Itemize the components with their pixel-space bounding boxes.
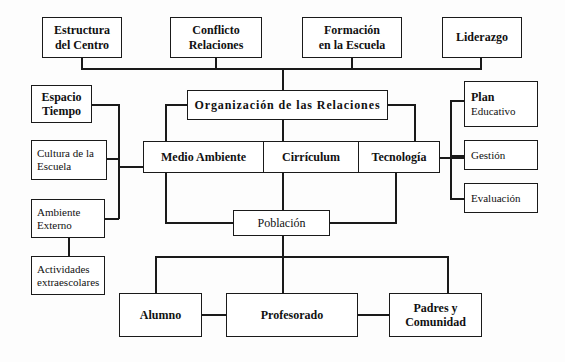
diagram-canvas: Estructura del Centro Conflicto Relacion… (0, 0, 565, 362)
node-label-line1: Cultura de la (37, 147, 94, 160)
node-label-line2: Externo (37, 219, 72, 232)
edge-medio-ambiente-to-poblacion (165, 222, 234, 224)
edge-alumno-to-profesorado (202, 314, 227, 316)
node-label-line1: Estructura (54, 23, 110, 37)
node-label-line1: Evaluación (471, 192, 520, 205)
edge-tecnologia-to-right-bus (440, 157, 466, 159)
node-formacion-escuela[interactable]: Formación en la Escuela (302, 17, 402, 58)
node-label-line2: en la Escuela (319, 38, 386, 52)
node-plan-educativo[interactable]: Plan Educativo (464, 81, 538, 127)
node-label-line2: Educativo (471, 105, 516, 118)
node-label-line1: Profesorado (261, 308, 323, 322)
node-label-line1: Plan (471, 90, 494, 104)
node-label-line1: Padres y (413, 301, 457, 315)
node-evaluacion[interactable]: Evaluación (464, 183, 538, 213)
node-label-line1: Organización de las Relaciones (195, 98, 381, 112)
edge-bottom-bus-to-profesorado (282, 256, 284, 294)
edge-tecnologia-drop (395, 173, 397, 223)
node-label-line1: Conflicto (192, 23, 239, 37)
node-espacio-tiempo[interactable]: Espacio Tiempo (31, 85, 92, 123)
edge-medio-ambiente-drop (165, 173, 167, 223)
edge-cultura-escuela-stub (107, 158, 119, 160)
node-gestion[interactable]: Gestión (464, 140, 538, 170)
node-label-line2: Comunidad (405, 315, 466, 329)
node-poblacion[interactable]: Población (233, 210, 330, 236)
edge-curriculum-to-poblacion (282, 173, 284, 211)
node-label-line1: Espacio (41, 90, 81, 104)
node-profesorado[interactable]: Profesorado (226, 293, 358, 337)
edge-right-bus-to-plan (450, 100, 465, 102)
node-alumno[interactable]: Alumno (119, 293, 202, 337)
edge-profesorado-to-padres (358, 314, 390, 316)
node-label-line2: Tiempo (42, 104, 81, 118)
edge-left-bus (118, 104, 120, 219)
node-label-line1: Formación (324, 23, 380, 37)
node-ambiente-externo[interactable]: Ambiente Externo (31, 199, 105, 238)
node-label-line1: Población (258, 216, 306, 230)
node-label-line1: Alumno (140, 308, 181, 322)
node-padres-comunidad[interactable]: Padres y Comunidad (389, 293, 482, 337)
node-conflicto-relaciones[interactable]: Conflicto Relaciones (170, 17, 262, 58)
edge-organizacion-center-drop (282, 120, 284, 141)
edge-right-bus (450, 100, 452, 199)
edge-ambiente-to-actividades (68, 238, 70, 257)
node-label-line1: Liderazgo (456, 30, 508, 44)
edge-organizacion-right-stub (388, 104, 415, 106)
node-label-line2: extraescolares (37, 276, 99, 289)
node-label-line1: Medio Ambiente (161, 150, 246, 164)
edge-organizacion-right-drop (414, 104, 416, 141)
edge-organizacion-left-drop (165, 104, 167, 141)
edge-left-bus-to-medio-ambiente (118, 166, 144, 168)
node-label-line1: Gestión (471, 149, 505, 162)
node-label-line1: Cirrículum (282, 150, 340, 164)
edge-poblacion-drop (282, 236, 284, 257)
node-estructura-centro[interactable]: Estructura del Centro (42, 17, 122, 58)
edge-right-bus-to-gestion (450, 155, 465, 157)
edge-bottom-bus-to-alumno (155, 256, 157, 294)
node-label-line2: del Centro (55, 38, 109, 52)
node-label-line2: Relaciones (189, 38, 244, 52)
node-curriculum[interactable]: Cirrículum (263, 141, 359, 173)
node-label-line1: Tecnología (372, 150, 427, 164)
edge-organizacion-left-stub (165, 104, 188, 106)
node-label-line1: Ambiente (37, 206, 80, 219)
node-label-line1: Actividades (37, 263, 90, 276)
edge-espacio-tiempo-stub (92, 104, 119, 106)
edge-bottom-bus-to-padres (447, 256, 449, 294)
edge-right-bus-to-evaluacion (450, 198, 465, 200)
node-cultura-escuela[interactable]: Cultura de la Escuela (31, 140, 107, 180)
edge-bottom-bus (155, 256, 448, 258)
edge-ambiente-externo-stub (105, 218, 119, 220)
node-liderazgo[interactable]: Liderazgo (442, 17, 522, 58)
node-organizacion-relaciones[interactable]: Organización de las Relaciones (187, 90, 388, 120)
node-tecnologia[interactable]: Tecnología (358, 141, 440, 173)
node-actividades-extraescolares[interactable]: Actividades extraescolares (31, 256, 105, 295)
node-medio-ambiente[interactable]: Medio Ambiente (143, 141, 264, 173)
edge-top-bus-to-organizacion (282, 68, 284, 91)
edge-tecnologia-to-poblacion (329, 222, 397, 224)
node-label-line2: Escuela (37, 160, 71, 173)
